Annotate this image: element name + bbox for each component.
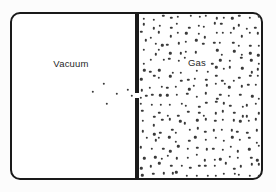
- gas-particle: [248, 175, 250, 177]
- gas-particle: [220, 23, 222, 25]
- gas-particle: [141, 130, 143, 132]
- gas-particle: [202, 26, 204, 28]
- gas-particle: [255, 83, 257, 85]
- gas-particle: [167, 115, 169, 117]
- gas-particle: [177, 16, 179, 18]
- gas-label: Gas: [188, 57, 206, 68]
- gas-particle: [185, 32, 187, 34]
- gas-particle: [205, 148, 207, 150]
- gas-particle: [187, 111, 189, 113]
- gas-particle: [169, 52, 171, 54]
- gas-particle: [153, 19, 155, 21]
- gas-particle: [250, 157, 252, 159]
- gas-particle: [221, 80, 223, 82]
- gas-particle: [257, 32, 259, 34]
- gas-particle: [127, 89, 129, 91]
- gas-particle: [140, 97, 142, 99]
- gas-particle: [145, 39, 147, 41]
- gas-particle: [221, 119, 223, 121]
- gas-particle: [198, 105, 200, 107]
- gas-particle: [188, 26, 190, 28]
- gas-particle: [206, 84, 208, 86]
- gas-particle: [230, 31, 232, 33]
- gas-particle: [159, 103, 161, 105]
- gas-particle: [158, 48, 160, 50]
- gas-particle: [158, 77, 160, 79]
- gas-particle: [151, 147, 153, 149]
- gas-particle: [149, 71, 151, 73]
- gas-particle: [248, 17, 250, 19]
- gas-particle: [92, 91, 94, 93]
- gas-particle: [180, 52, 182, 54]
- gas-particle: [141, 89, 143, 91]
- gas-particle: [195, 39, 197, 41]
- gas-particle: [231, 129, 233, 131]
- gas-particle: [237, 150, 239, 152]
- gas-particle: [242, 106, 244, 108]
- gas-particle: [247, 119, 249, 121]
- gas-particle: [215, 17, 217, 19]
- gas-particle: [196, 96, 198, 98]
- gas-particle: [198, 24, 200, 26]
- gas-particle: [150, 165, 152, 167]
- gas-particle: [184, 57, 186, 59]
- gas-particle: [158, 69, 160, 71]
- gas-particle: [176, 157, 178, 159]
- gas-particle: [214, 22, 216, 24]
- gas-particle: [219, 158, 221, 160]
- gas-particle: [176, 94, 178, 96]
- gas-particle: [223, 16, 225, 18]
- gas-particle: [205, 79, 207, 81]
- gas-particle: [233, 119, 235, 121]
- gas-particle: [238, 15, 240, 17]
- gas-particle: [163, 172, 165, 174]
- gas-particle: [175, 86, 177, 88]
- gas-particle: [204, 164, 206, 166]
- gas-particle: [216, 98, 218, 100]
- gas-particle: [231, 17, 233, 19]
- gas-particle: [151, 104, 153, 106]
- gas-particle: [154, 53, 156, 55]
- gas-particle: [187, 78, 189, 80]
- gas-particle: [216, 49, 218, 51]
- gas-particle: [189, 15, 191, 17]
- gas-particle: [214, 158, 216, 160]
- gas-particle: [167, 155, 169, 157]
- gas-particle: [212, 148, 214, 150]
- gas-particle: [198, 112, 200, 114]
- gas-particle: [258, 98, 260, 100]
- gas-particle: [213, 42, 215, 44]
- gas-particle: [222, 139, 224, 141]
- gas-particle: [229, 156, 231, 158]
- gas-particle: [224, 83, 226, 85]
- gas-particle: [221, 110, 223, 112]
- gas-particle: [158, 112, 160, 114]
- gas-particle: [194, 136, 196, 138]
- gas-particle: [249, 75, 251, 77]
- gas-particle: [180, 71, 182, 73]
- gas-particle: [239, 165, 241, 167]
- gas-particle: [106, 103, 108, 105]
- gas-particle: [175, 171, 177, 173]
- particle-field: [0, 0, 276, 192]
- gas-particle: [255, 141, 257, 143]
- gas-particle: [256, 159, 258, 161]
- gas-particle: [158, 162, 160, 164]
- gas-particle: [193, 84, 195, 86]
- gas-particle: [198, 33, 200, 35]
- gas-particle: [178, 42, 180, 44]
- gas-particle: [142, 62, 144, 64]
- gas-particle: [228, 86, 230, 88]
- gas-particle: [171, 129, 173, 131]
- gas-particle: [233, 27, 235, 29]
- gas-particle: [214, 120, 216, 122]
- gas-particle: [103, 83, 105, 85]
- gas-particle: [186, 175, 188, 177]
- gas-particle: [186, 148, 188, 150]
- gas-particle: [246, 28, 248, 30]
- gas-particle: [202, 43, 204, 45]
- gas-particle: [207, 175, 209, 177]
- gas-particle: [215, 112, 217, 114]
- gas-particle: [199, 16, 201, 18]
- gas-particle: [240, 57, 242, 59]
